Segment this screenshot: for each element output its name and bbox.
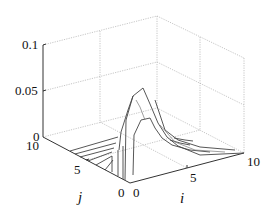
j-tick-0: 0 bbox=[118, 186, 125, 199]
j-tick-5: 5 bbox=[74, 163, 81, 176]
z-tick-0.05: 0.05 bbox=[15, 84, 38, 97]
j-tick-10: 10 bbox=[26, 139, 39, 152]
y-axis-label: j bbox=[78, 190, 82, 205]
z-tick-0.1: 0.1 bbox=[22, 38, 38, 51]
grid-lines bbox=[43, 16, 244, 168]
surface-mesh bbox=[70, 88, 244, 180]
i-tick-10: 10 bbox=[247, 155, 260, 168]
surface-plot bbox=[0, 0, 273, 211]
x-axis-label: i bbox=[180, 191, 184, 206]
i-tick-5: 5 bbox=[190, 171, 197, 184]
surface-mesh-light bbox=[136, 100, 225, 152]
i-tick-0: 0 bbox=[133, 186, 140, 199]
